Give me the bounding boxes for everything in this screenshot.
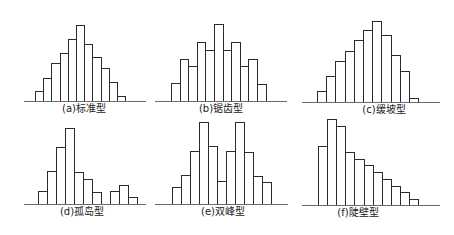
histogram-bar <box>257 84 267 101</box>
caption-d: (d)孤岛型 <box>60 206 104 218</box>
caption-f: (f)陡壁型 <box>337 207 378 219</box>
x-axis-line <box>302 205 440 206</box>
x-axis-line <box>24 101 146 102</box>
x-axis-line <box>24 204 146 205</box>
x-axis-line <box>155 204 288 205</box>
histogram-bar <box>262 182 272 204</box>
histogram-bar <box>128 197 138 204</box>
histogram-bar <box>117 96 126 101</box>
caption-e: (e)双峰型 <box>201 206 245 218</box>
caption-b: (b)锯齿型 <box>199 103 243 115</box>
caption-a: (a)标准型 <box>62 103 106 115</box>
histogram-bar <box>409 98 419 102</box>
x-axis-line <box>302 102 440 103</box>
x-axis-line <box>155 101 287 102</box>
histogram-bar <box>92 192 102 204</box>
histogram-bar <box>409 199 419 205</box>
caption-c: (c)缓坡型 <box>362 104 405 116</box>
